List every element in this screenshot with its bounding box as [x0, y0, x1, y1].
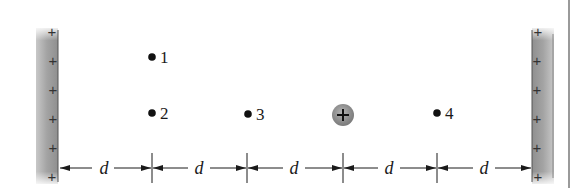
plus-sign-icon: + [533, 81, 542, 98]
dimension-segment-5: d [438, 158, 531, 178]
point-dot [244, 110, 252, 118]
point-label: 1 [160, 48, 169, 67]
dimension-label: d [100, 158, 110, 178]
positive-charge [332, 104, 354, 126]
dimension-label: d [195, 158, 205, 178]
point-label: 4 [445, 104, 454, 123]
dimension-label: d [290, 158, 300, 178]
plus-sign-icon: + [48, 23, 57, 40]
dimension-label: d [480, 158, 490, 178]
dimension-label: d [385, 158, 395, 178]
left-plate: + + + + + + [36, 23, 58, 185]
plus-sign-icon: + [534, 23, 543, 40]
plus-sign-icon: + [49, 81, 58, 98]
plus-sign-icon: + [49, 52, 58, 69]
point-1: 1 [148, 48, 168, 67]
dimension-segment-1: d [60, 158, 151, 178]
plus-sign-icon: + [533, 139, 542, 156]
plus-sign-icon: + [49, 139, 58, 156]
plus-sign-icon: + [533, 110, 542, 127]
dimension-segment-3: d [248, 158, 342, 178]
plus-sign-icon: + [534, 168, 543, 185]
dimension-segment-2: d [153, 158, 246, 178]
point-dot [433, 109, 441, 117]
point-3: 3 [244, 105, 264, 124]
point-label: 3 [256, 105, 265, 124]
dimension-segment-4: d [344, 158, 436, 178]
point-4: 4 [433, 104, 454, 123]
plus-sign-icon: + [533, 52, 542, 69]
point-label: 2 [160, 104, 169, 123]
electric-field-diagram: + + + + + + + + + + + + 1 2 3 [0, 0, 572, 188]
dimension-line: d d d d d [60, 153, 531, 183]
plus-sign-icon: + [48, 168, 57, 185]
plus-sign-icon: + [49, 110, 58, 127]
point-2: 2 [148, 104, 168, 123]
right-plate: + + + + + + [532, 23, 554, 185]
point-dot [148, 109, 156, 117]
point-dot [148, 53, 156, 61]
